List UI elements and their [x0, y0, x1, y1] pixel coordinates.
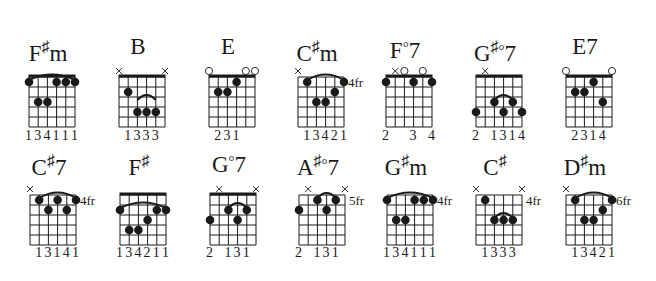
finger-dot-icon: [303, 78, 312, 87]
finger-dot-icon: [312, 98, 321, 107]
muted-string-icon: [116, 68, 122, 74]
fingering-label: 1333: [459, 245, 549, 263]
finger-dot-icon: [223, 88, 232, 97]
finger-dot-icon: [124, 88, 133, 97]
finger-dot-icon: [206, 216, 215, 225]
chord-csharpm: C♯m4fr13421: [281, 34, 361, 148]
finger-dot-icon: [72, 196, 81, 205]
finger-dot-icon: [490, 216, 499, 225]
finger-dot-icon: [53, 196, 62, 205]
finger-dot-icon: [116, 206, 125, 215]
fingering-label: 2131: [193, 245, 283, 263]
finger-dot-icon: [481, 196, 490, 205]
finger-dot-icon: [331, 88, 340, 97]
nut: [120, 193, 167, 196]
finger-dot-icon: [401, 216, 410, 225]
finger-dot-icon: [133, 108, 142, 117]
finger-dot-icon: [224, 206, 233, 215]
muted-string-icon: [253, 186, 259, 192]
nut: [476, 75, 523, 78]
chord-dsharpm: D♯m6fr13421: [549, 148, 629, 265]
finger-dot-icon: [589, 216, 598, 225]
fret-position-label: 4fr: [437, 193, 452, 209]
fingering-label: 234: [369, 128, 459, 146]
muted-string-icon: [473, 186, 479, 192]
muted-string-icon: [305, 186, 311, 192]
chord-gsharpm: G♯m4fr134111: [370, 148, 450, 265]
chord-asharpdim7: A♯°75fr2131: [282, 148, 362, 265]
fingering-label: 2314: [549, 128, 639, 146]
fret-position-label: 5fr: [349, 193, 364, 209]
fret-position-label: 4fr: [80, 193, 95, 209]
chord-diagram: [102, 34, 192, 133]
muted-string-icon: [519, 186, 525, 192]
muted-string-icon: [392, 68, 398, 74]
open-string-icon: [251, 67, 258, 74]
chord-fsharp: F♯134211: [103, 148, 183, 265]
chord-csharp: C♯4fr1333: [459, 148, 539, 265]
finger-dot-icon: [35, 196, 44, 205]
finger-dot-icon: [152, 108, 161, 117]
finger-dot-icon: [589, 78, 598, 87]
finger-dot-icon: [599, 206, 608, 215]
finger-dot-icon: [332, 196, 341, 205]
finger-dot-icon: [340, 78, 349, 87]
nut: [119, 75, 166, 78]
open-string-icon: [608, 67, 615, 74]
nut: [386, 75, 433, 78]
muted-string-icon: [216, 186, 222, 192]
finger-dot-icon: [232, 78, 241, 87]
chord-diagram: [369, 34, 459, 133]
open-string-icon: [419, 67, 426, 74]
chord-diagram: [12, 34, 102, 133]
chord-diagram: [193, 148, 283, 251]
finger-dot-icon: [571, 196, 580, 205]
fret-position-label: 4fr: [348, 75, 363, 91]
finger-dot-icon: [295, 206, 304, 215]
fret-position-label: 6fr: [616, 193, 631, 209]
finger-dot-icon: [162, 206, 171, 215]
finger-dot-icon: [52, 78, 61, 87]
open-string-icon: [205, 67, 212, 74]
nut: [566, 75, 613, 78]
fingering-label: 13421: [281, 128, 371, 146]
chord-diagram: [192, 34, 282, 133]
finger-dot-icon: [322, 206, 331, 215]
chord-gdim7: G°72131: [193, 148, 273, 265]
finger-dot-icon: [490, 98, 499, 107]
fret-position-label: 4fr: [526, 193, 541, 209]
fingering-label: 2131: [282, 245, 372, 263]
chord-e7: E72314: [549, 34, 629, 148]
finger-dot-icon: [153, 206, 162, 215]
fingering-label: 231: [192, 128, 282, 146]
chord-csharp7: C♯74fr13141: [13, 148, 93, 265]
finger-dot-icon: [214, 88, 223, 97]
finger-dot-icon: [44, 206, 53, 215]
fingering-label: 134211: [103, 245, 193, 263]
fingering-label: 13421: [549, 245, 639, 263]
finger-dot-icon: [472, 108, 481, 117]
finger-dot-icon: [580, 216, 589, 225]
fingering-label: 1333: [102, 128, 192, 146]
finger-dot-icon: [62, 78, 71, 87]
finger-dot-icon: [392, 216, 401, 225]
finger-dot-icon: [509, 216, 518, 225]
fingering-label: 134111: [12, 128, 102, 146]
chord-fsharpm: F♯m134111: [12, 34, 92, 148]
muted-string-icon: [295, 68, 301, 74]
finger-dot-icon: [321, 98, 330, 107]
muted-string-icon: [342, 186, 348, 192]
finger-dot-icon: [608, 196, 617, 205]
finger-dot-icon: [143, 216, 152, 225]
finger-dot-icon: [383, 196, 392, 205]
chord-fdim7: F°7234: [369, 34, 449, 148]
finger-dot-icon: [63, 206, 72, 215]
muted-string-icon: [482, 68, 488, 74]
finger-dot-icon: [509, 98, 518, 107]
finger-dot-icon: [580, 88, 589, 97]
finger-dot-icon: [134, 226, 143, 235]
finger-dot-icon: [142, 108, 151, 117]
fingering-label: 134111: [370, 245, 460, 263]
nut: [209, 75, 256, 78]
finger-dot-icon: [429, 196, 438, 205]
